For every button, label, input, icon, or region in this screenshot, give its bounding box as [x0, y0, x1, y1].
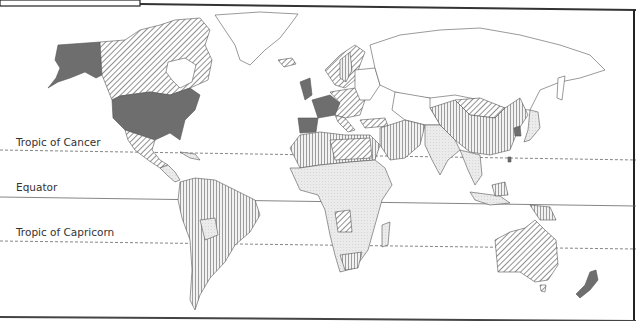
- oceania: [495, 220, 598, 298]
- title-box: [0, 0, 140, 6]
- region-borneo: [492, 182, 508, 196]
- equator-line: [0, 197, 636, 206]
- region-tasmania: [540, 285, 546, 292]
- region-central-america: [160, 165, 180, 182]
- region-new-guinea: [530, 205, 556, 220]
- region-iberia: [298, 118, 318, 133]
- north-america: [48, 18, 212, 182]
- region-iceland: [278, 58, 296, 67]
- region-kamchatka-sakhalin: [557, 76, 565, 100]
- equator-label: Equator: [16, 181, 58, 193]
- region-madagascar: [382, 222, 390, 247]
- region-uk: [300, 78, 312, 100]
- africa: [290, 132, 392, 272]
- region-southeast-asia: [460, 150, 482, 185]
- region-middle-east: [380, 120, 425, 160]
- region-angola: [335, 210, 352, 232]
- region-greenland: [215, 12, 298, 65]
- tropic-of-cancer-label: Tropic of Cancer: [15, 136, 101, 148]
- tropic-of-capricorn-label: Tropic of Capricorn: [15, 226, 114, 238]
- region-south-korea: [514, 126, 521, 136]
- asia: [380, 92, 556, 220]
- region-new-zealand: [576, 270, 598, 298]
- region-australia: [495, 220, 558, 282]
- world-map: Tropic of Cancer Equator Tropic of Capri…: [0, 0, 636, 321]
- world-map-svg: Tropic of Cancer Equator Tropic of Capri…: [0, 0, 636, 321]
- region-usa: [112, 88, 200, 140]
- region-taiwan: [508, 157, 511, 162]
- region-alaska: [48, 42, 102, 88]
- region-libya-egypt: [330, 138, 372, 160]
- region-canada: [100, 18, 212, 100]
